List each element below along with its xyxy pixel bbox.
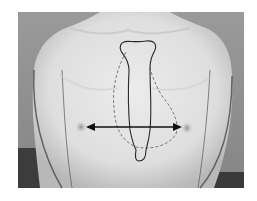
torso bbox=[33, 12, 233, 188]
right-nipple bbox=[181, 122, 193, 134]
chest-photo-figure bbox=[0, 0, 257, 201]
left-nipple bbox=[75, 121, 87, 133]
chest-photo bbox=[0, 0, 257, 201]
